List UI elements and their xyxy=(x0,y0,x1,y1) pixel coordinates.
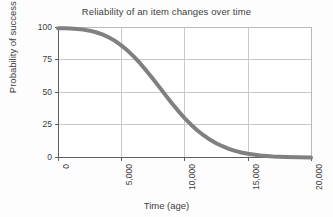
y-tick-label-50: 50 xyxy=(43,88,52,97)
series-line-reliability xyxy=(58,27,311,158)
x-tick-mark-5000 xyxy=(121,158,122,161)
chart-figure: Reliability of an item changes over time… xyxy=(0,0,333,217)
y-tick-label-75: 75 xyxy=(43,55,52,64)
y-axis-title: Probability of success (%) xyxy=(7,0,18,104)
y-tick-label-0: 0 xyxy=(47,153,52,162)
y-tick-label-25: 25 xyxy=(43,120,52,129)
x-tick-mark-10000 xyxy=(184,158,185,161)
chart-title: Reliability of an item changes over time xyxy=(0,6,333,17)
x-tick-mark-15000 xyxy=(248,158,249,161)
x-tick-mark-0 xyxy=(58,158,59,161)
y-tick-label-100: 100 xyxy=(38,23,52,32)
x-axis-title: Time (age) xyxy=(0,200,333,211)
